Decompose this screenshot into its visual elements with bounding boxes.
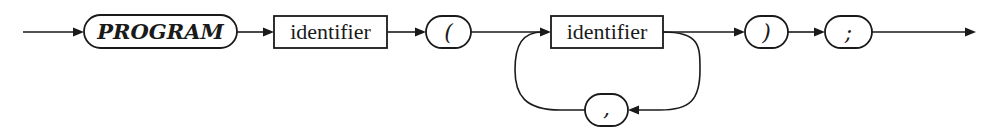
terminal-comma: , xyxy=(585,94,628,126)
terminal-label: PROGRAM xyxy=(96,19,224,44)
terminal-label: ; xyxy=(844,20,852,45)
terminal-label: ) xyxy=(761,20,771,45)
nonterminal-label: identifier xyxy=(567,19,648,44)
arrow-icon xyxy=(628,106,639,115)
terminal-semicolon: ; xyxy=(825,16,872,48)
arrow-icon xyxy=(263,28,274,37)
terminal-label: , xyxy=(603,96,610,121)
arrow-icon xyxy=(814,28,825,37)
nonterminal-identifier: identifier xyxy=(274,16,387,48)
arrow-icon xyxy=(734,28,745,37)
nonterminal-identifier-repeat: identifier xyxy=(551,16,663,48)
arrow-icon xyxy=(415,28,426,37)
nonterminal-label: identifier xyxy=(290,19,371,44)
terminal-program: PROGRAM xyxy=(84,15,237,48)
terminal-rparen: ) xyxy=(745,16,788,48)
arrow-icon xyxy=(73,28,84,37)
arrow-icon xyxy=(965,28,976,37)
terminal-label: ( xyxy=(444,20,453,45)
syntax-diagram: PROGRAM identifier ( identifier , ) xyxy=(0,0,998,133)
terminal-lparen: ( xyxy=(426,16,471,48)
